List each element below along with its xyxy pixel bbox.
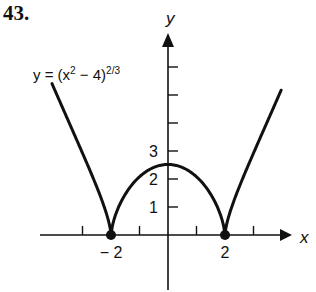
curve-right-branch (225, 90, 281, 235)
y-tick-label: 3 (149, 143, 158, 160)
problem-number: 43. (3, 1, 29, 25)
point-dot (106, 230, 116, 240)
x-tick-label: 2 (221, 244, 230, 261)
y-axis-label: y (165, 9, 176, 28)
function-curve (52, 84, 281, 235)
y-tick-label: 1 (149, 199, 158, 216)
curve-left-branch (52, 84, 111, 235)
graph-figure: 43. y = (x2 − 4)2/3 − 22123 y x (0, 0, 316, 292)
x-axis-arrow-icon (280, 229, 292, 241)
x-axis-label: x (299, 228, 309, 247)
tick-labels: − 22123 (100, 143, 230, 261)
point-dot (220, 230, 230, 240)
equation-label: y = (x2 − 4)2/3 (33, 65, 120, 83)
y-axis-arrow-icon (162, 33, 174, 47)
x-tick-label: − 2 (100, 244, 123, 261)
y-tick-label: 2 (149, 171, 158, 188)
